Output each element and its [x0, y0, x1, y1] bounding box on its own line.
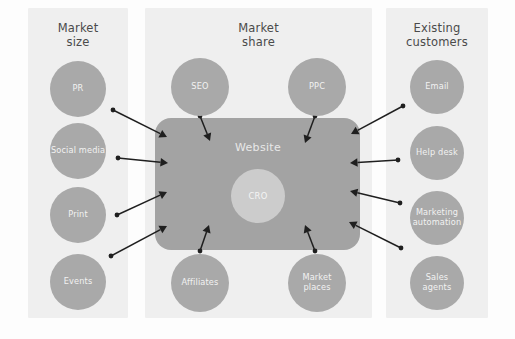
node-print[interactable]: Print — [50, 187, 106, 243]
node-pr[interactable]: PR — [50, 61, 106, 117]
node-print-label: Print — [68, 210, 88, 220]
node-seo[interactable]: SEO — [171, 58, 229, 116]
node-market-places-label: Market places — [302, 273, 331, 292]
node-email[interactable]: Email — [410, 60, 464, 114]
node-affiliates-label: Affiliates — [182, 278, 219, 288]
node-marketing-automation-label: Marketing automation — [413, 208, 462, 227]
diagram-canvas: Market size Market share Existing custom… — [0, 0, 515, 339]
panel-title-market-size: Market size — [28, 22, 128, 49]
node-affiliates[interactable]: Affiliates — [171, 254, 229, 312]
node-ppc-label: PPC — [309, 82, 325, 92]
core-cro[interactable]: CRO — [231, 169, 285, 223]
node-market-places[interactable]: Market places — [288, 254, 346, 312]
panel-title-market-share: Market share — [145, 22, 372, 49]
node-help-desk-label: Help desk — [416, 148, 458, 158]
core-cro-label: CRO — [248, 191, 267, 201]
node-social-media[interactable]: Social media — [50, 123, 106, 179]
node-ppc[interactable]: PPC — [288, 58, 346, 116]
node-email-label: Email — [425, 82, 448, 92]
node-sales-agents-label: Sales agents — [423, 273, 452, 292]
node-marketing-automation[interactable]: Marketing automation — [410, 191, 464, 245]
node-events[interactable]: Events — [50, 254, 106, 310]
panel-title-existing-customers: Existing customers — [386, 22, 488, 49]
node-pr-label: PR — [73, 84, 84, 94]
hub-website-label: Website — [198, 141, 318, 154]
node-social-media-label: Social media — [51, 146, 105, 156]
node-seo-label: SEO — [191, 82, 208, 92]
node-sales-agents[interactable]: Sales agents — [410, 256, 464, 310]
node-help-desk[interactable]: Help desk — [410, 126, 464, 180]
node-events-label: Events — [64, 277, 93, 287]
